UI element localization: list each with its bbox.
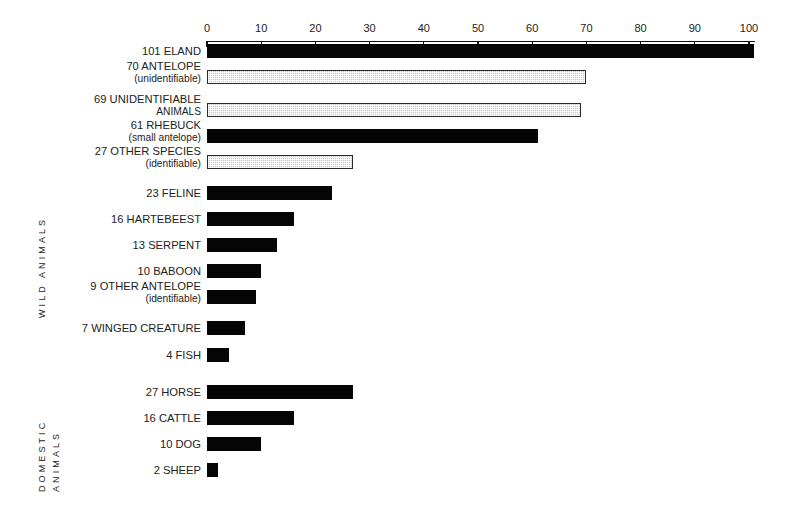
- bar: [207, 238, 277, 252]
- x-axis-line: [207, 41, 755, 42]
- bar-label-main: 16 HARTEBEEST: [111, 213, 201, 225]
- bar-label: 101 ELAND: [142, 45, 201, 58]
- bar: [207, 348, 229, 362]
- bar-label: 23 FELINE: [146, 187, 201, 200]
- bar-label-main: 23 FELINE: [146, 187, 201, 199]
- bar-label-main: 4 FISH: [166, 349, 201, 361]
- bar-label-sub: (small antelope): [129, 132, 201, 145]
- bar: [207, 463, 218, 477]
- bar-label-main: 16 CATTLE: [143, 412, 201, 424]
- bar-label: 16 CATTLE: [143, 412, 201, 425]
- bar-label-sub: ANIMALS: [94, 106, 201, 119]
- bar-label: 4 FISH: [166, 349, 201, 362]
- axis-tick-label-0: 0: [204, 22, 210, 34]
- bar-label-main: 61 RHEBUCK: [131, 119, 201, 131]
- bar: [207, 103, 581, 117]
- axis-tick-label-50: 50: [472, 22, 484, 34]
- bar-label: 10 BABOON: [138, 265, 201, 278]
- axis-tick-label-30: 30: [363, 22, 375, 34]
- bar-label-main: 13 SERPENT: [133, 239, 201, 251]
- bar-label-main: 27 HORSE: [146, 386, 201, 398]
- axis-tick-label-10: 10: [255, 22, 267, 34]
- bar-label-main: 27 OTHER SPECIES: [95, 145, 201, 157]
- bar-label-sub: (identifiable): [95, 158, 201, 171]
- bar: [207, 321, 245, 335]
- axis-tick-label-60: 60: [526, 22, 538, 34]
- bar-label-sub: (identifiable): [90, 293, 201, 306]
- bar: [207, 411, 294, 425]
- bar-label: 70 ANTELOPE(unidentifiable): [126, 60, 201, 85]
- bar-label-main: 10 BABOON: [138, 265, 201, 277]
- bar-label: 27 OTHER SPECIES(identifiable): [95, 145, 201, 170]
- bar-label: 2 SHEEP: [154, 464, 201, 477]
- bar-label: 27 HORSE: [146, 386, 201, 399]
- group-label-domestic-line1: DOMESTIC: [37, 420, 47, 492]
- bar-label: 7 WINGED CREATURE: [82, 322, 201, 335]
- axis-tick-label-90: 90: [689, 22, 701, 34]
- bar: [207, 264, 261, 278]
- axis-tick-label-20: 20: [309, 22, 321, 34]
- bar-label-main: 70 ANTELOPE: [126, 60, 201, 72]
- bar-label: 61 RHEBUCK(small antelope): [129, 119, 201, 144]
- bar-label-main: 9 OTHER ANTELOPE: [90, 280, 201, 292]
- group-label-domestic-line2: ANIMALS: [51, 431, 61, 492]
- bar-label-main: 101 ELAND: [142, 45, 201, 57]
- bar-label: 9 OTHER ANTELOPE(identifiable): [90, 280, 201, 305]
- group-label-wild-animals: WILD ANIMALS: [37, 217, 47, 318]
- bar-label-main: 2 SHEEP: [154, 464, 201, 476]
- bar: [207, 155, 353, 169]
- bar-label: 16 HARTEBEEST: [111, 213, 201, 226]
- bar: [207, 129, 538, 143]
- bar: [207, 290, 256, 304]
- axis-tick-label-80: 80: [634, 22, 646, 34]
- bar: [207, 385, 353, 399]
- bar-label-main: 10 DOG: [160, 438, 201, 450]
- bar: [207, 44, 754, 58]
- bar: [207, 186, 332, 200]
- bar-label: 10 DOG: [160, 438, 201, 451]
- bar-label-sub: (unidentifiable): [126, 73, 201, 86]
- bar-label: 69 UNIDENTIFIABLEANIMALS: [94, 93, 201, 118]
- axis-tick-label-40: 40: [418, 22, 430, 34]
- bar-label-main: 69 UNIDENTIFIABLE: [94, 93, 201, 105]
- axis-tick-label-70: 70: [580, 22, 592, 34]
- bar: [207, 212, 294, 226]
- bar-chart: WILD ANIMALS DOMESTIC ANIMALS 0102030405…: [0, 0, 791, 513]
- axis-tick-label-100: 100: [740, 22, 758, 34]
- bar: [207, 437, 261, 451]
- bar-label: 13 SERPENT: [133, 239, 201, 252]
- bar: [207, 70, 586, 84]
- bar-label-main: 7 WINGED CREATURE: [82, 322, 201, 334]
